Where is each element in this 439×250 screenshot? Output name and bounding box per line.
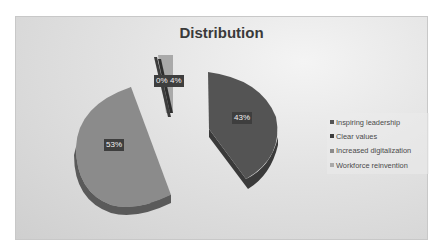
legend-label: Inspiring leadership <box>336 118 400 127</box>
legend-label: Increased digitalization <box>336 146 411 155</box>
legend-swatch-icon <box>330 120 334 124</box>
chart-legend: Inspiring leadership Clear values Increa… <box>327 113 429 174</box>
legend-label: Clear values <box>336 132 377 141</box>
legend-swatch-icon <box>330 134 334 138</box>
legend-item-inspiring-leadership: Inspiring leadership <box>330 115 426 129</box>
legend-item-clear-values: Clear values <box>330 129 426 143</box>
legend-swatch-icon <box>330 149 334 153</box>
data-label-workforce-reinvention: 4% <box>168 75 184 87</box>
chart-area: Distribution 0% 4% 53% 43% Inspiring lea… <box>15 16 428 240</box>
legend-label: Workforce reinvention <box>336 161 408 170</box>
data-label-inspiring-leadership: 43% <box>232 112 252 124</box>
data-label-increased-digitalization: 53% <box>104 139 124 151</box>
legend-item-increased-digitalization: Increased digitalization <box>330 144 426 158</box>
legend-item-workforce-reinvention: Workforce reinvention <box>330 158 426 172</box>
legend-swatch-icon <box>330 163 334 167</box>
